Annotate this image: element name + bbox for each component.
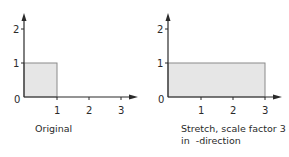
y-axis-arrow-icon	[22, 13, 27, 21]
panel-original: 2 1 0 1 2 3	[13, 13, 138, 116]
x-tick-label: 2	[230, 105, 236, 116]
caption-stretch-line1: Stretch, scale factor 3	[181, 123, 286, 135]
caption-stretch-line2: in -direction	[181, 135, 286, 147]
caption-stretch: Stretch, scale factor 3 in -direction	[181, 123, 286, 147]
origin-label: 0	[158, 94, 164, 105]
x-tick-label: 3	[118, 105, 124, 116]
y-tick-label: 1	[13, 58, 19, 69]
origin-label: 0	[14, 94, 20, 105]
y-axis-arrow-icon	[166, 13, 171, 21]
x-tick-label: 1	[54, 105, 60, 116]
x-tick-label: 1	[198, 105, 204, 116]
stretched-rectangle	[168, 63, 265, 97]
y-tick-label: 1	[157, 58, 163, 69]
x-axis-arrow-icon	[129, 95, 138, 100]
unit-square	[24, 63, 57, 97]
x-axis-arrow-icon	[273, 95, 282, 100]
x-tick-label: 2	[86, 105, 92, 116]
panel-stretch: 2 1 0 1 2 3	[157, 13, 282, 116]
y-tick-label: 2	[13, 24, 19, 35]
caption-original: Original	[35, 123, 72, 135]
y-tick-label: 2	[157, 24, 163, 35]
x-tick-label: 3	[262, 105, 268, 116]
